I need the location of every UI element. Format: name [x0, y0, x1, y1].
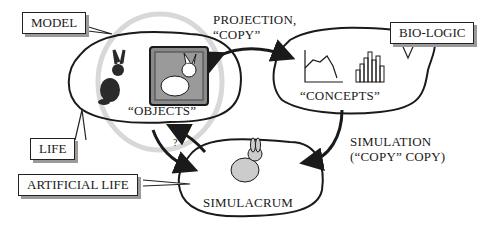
simulation-arrow	[308, 110, 342, 162]
artificial-life-callout: ARTIFICIAL LIFE	[18, 174, 138, 196]
line-graph-icon	[305, 50, 343, 82]
bar-chart-icon	[356, 52, 384, 82]
life-callout: LIFE	[30, 138, 75, 160]
concepts-label: “CONCEPTS”	[300, 88, 380, 104]
projection-label: PROJECTION,	[213, 12, 296, 28]
copy-copy-label: (“COPY” COPY)	[350, 149, 445, 165]
bio-logic-callout: BIO-LOGIC	[390, 22, 474, 44]
projection-arrow	[218, 49, 287, 57]
objects-label: “OBJECTS”	[128, 103, 196, 119]
question-mark: ?	[173, 137, 177, 148]
simulation-label: SIMULATION	[350, 134, 431, 150]
framed-rabbit-icon	[150, 47, 208, 105]
textured-rabbit-icon	[231, 138, 262, 182]
simulacrum-label: SIMULACRUM	[203, 195, 293, 211]
copy-label: “COPY”	[213, 27, 260, 43]
model-callout: MODEL	[22, 12, 86, 34]
